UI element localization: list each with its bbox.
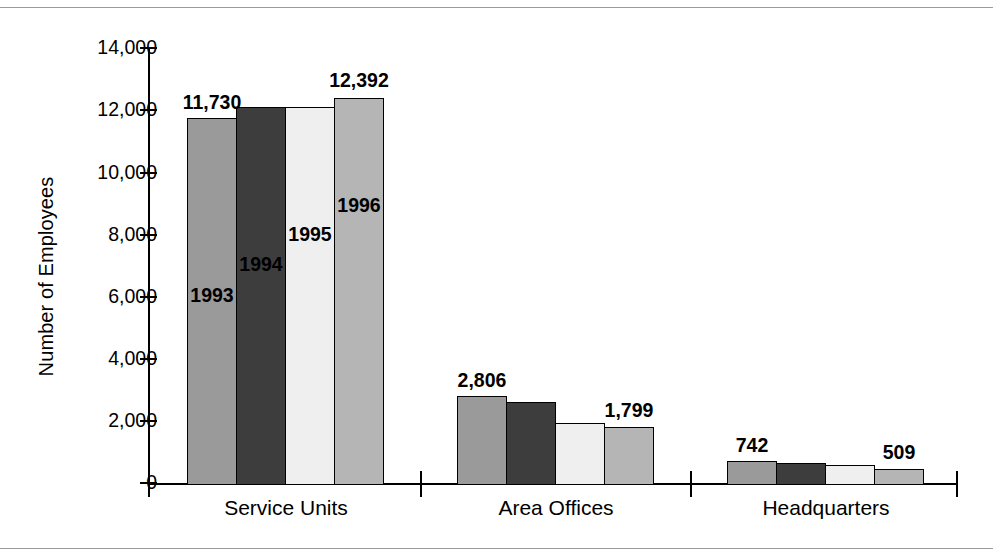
value-label-area-offices-1996: 1,799 <box>584 401 674 421</box>
bar-area-offices-1996[interactable] <box>604 427 654 485</box>
y-tick-mark-4000 <box>140 358 157 360</box>
bar-headquarters-1994[interactable] <box>776 463 826 485</box>
y-tick-mark-10000 <box>140 172 157 174</box>
x-axis-sep-1 <box>420 471 422 497</box>
x-axis-sep-start <box>148 471 150 497</box>
bar-area-offices-1993[interactable] <box>457 396 507 485</box>
bar-service-units-1995[interactable] <box>285 107 335 485</box>
value-label-area-offices-1993: 2,806 <box>437 371 527 391</box>
value-label-service-units-1993: 11,730 <box>167 93 257 113</box>
category-label-headquarters: Headquarters <box>726 496 926 520</box>
category-label-service-units: Service Units <box>186 496 386 520</box>
y-tick-mark-6000 <box>140 296 157 298</box>
bar-area-offices-1994[interactable] <box>506 402 556 485</box>
value-label-service-units-1996: 12,392 <box>314 71 404 91</box>
value-label-headquarters-1993: 742 <box>707 436 797 456</box>
bar-headquarters-1993[interactable] <box>727 461 777 485</box>
y-tick-mark-12000 <box>140 109 157 111</box>
x-axis-sep-2 <box>690 471 692 497</box>
value-label-headquarters-1996: 509 <box>854 443 944 463</box>
category-label-area-offices: Area Offices <box>456 496 656 520</box>
series-label-1994: 1994 <box>236 255 286 275</box>
bar-area-offices-1995[interactable] <box>555 423 605 485</box>
y-tick-mark-14000 <box>140 47 157 49</box>
y-tick-mark-2000 <box>140 420 157 422</box>
x-axis-sep-end <box>956 471 958 497</box>
bar-service-units-1994[interactable] <box>236 107 286 485</box>
series-label-1995: 1995 <box>285 225 335 245</box>
bar-chart: Number of Employees 14,000 12,000 10,000… <box>0 0 993 557</box>
y-axis-title: Number of Employees <box>35 127 58 427</box>
series-label-1996: 1996 <box>334 196 384 216</box>
series-label-1993: 1993 <box>187 286 237 306</box>
bar-headquarters-1996[interactable] <box>874 469 924 485</box>
y-tick-mark-8000 <box>140 234 157 236</box>
bar-headquarters-1995[interactable] <box>825 465 875 485</box>
bar-service-units-1996[interactable] <box>334 98 384 485</box>
